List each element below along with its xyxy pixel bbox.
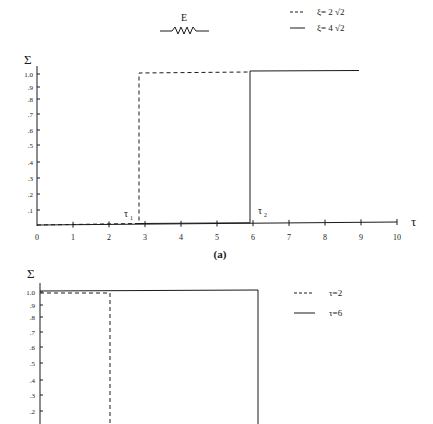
x-tick-label: 5 xyxy=(215,233,219,242)
svg-text:τ: τ xyxy=(124,208,128,219)
element-label: E xyxy=(181,12,187,23)
element-header: E xyxy=(160,12,209,34)
y-axis-label-a: Σ xyxy=(24,52,32,67)
y-tick-label: .2 xyxy=(28,191,34,199)
svg-text:1: 1 xyxy=(130,215,133,221)
y-axis-label-b: Σ xyxy=(27,266,35,281)
y-tick-label: .6 xyxy=(30,344,36,352)
y-tick-label: .8 xyxy=(30,314,36,322)
y-tick-label: .7 xyxy=(30,329,36,337)
y-tick-label: .8 xyxy=(28,96,34,104)
y-tick-label: .2 xyxy=(30,408,36,416)
legend-label-tau2: τ=2 xyxy=(329,288,342,298)
annotation-tau1: τ 1 xyxy=(124,208,133,221)
svg-text:τ: τ xyxy=(258,205,262,216)
legend-bottom: τ=2 τ=6 xyxy=(294,288,343,318)
x-tick-label: 4 xyxy=(179,233,183,242)
legend-top: ξ= 2 √2 ξ= 4 √2 xyxy=(290,7,345,33)
x-axis-label-a: τ xyxy=(411,214,416,229)
x-tick-label: 7 xyxy=(287,233,291,242)
x-tick-label: 1 xyxy=(71,233,75,242)
y-tick-label: .9 xyxy=(30,302,36,310)
svg-text:2: 2 xyxy=(264,212,267,218)
y-tick-label: .4 xyxy=(28,159,34,167)
spring-resistor-icon xyxy=(160,27,209,34)
figure-canvas: E ξ= 2 √2 ξ= 4 √2 Σ .1.2.3.4.5.6.7.8.91.… xyxy=(0,0,433,424)
legend-label-xi-2root2: ξ= 2 √2 xyxy=(317,7,345,17)
x-tick-label: 0 xyxy=(35,233,39,242)
y-tick-label: .6 xyxy=(28,127,34,135)
caption-a: (a) xyxy=(214,248,227,261)
series-dashed-a xyxy=(37,72,250,225)
y-tick-label: 1.0 xyxy=(24,71,33,79)
annotation-tau2: τ 2 xyxy=(258,205,267,218)
y-tick-label: .3 xyxy=(28,175,34,183)
y-tick-label: 1.0 xyxy=(26,289,35,297)
series-solid-a xyxy=(139,71,359,224)
chart-b: Σ .2.3.4.5.6.7.8.91.0 τ=2 τ=6 xyxy=(26,266,342,424)
y-tick-label: .4 xyxy=(30,377,36,385)
y-ticks-a: .1.2.3.4.5.6.7.8.91.0 xyxy=(24,71,40,215)
x-tick-label: 10 xyxy=(393,233,401,242)
legend-label-xi-4root2: ξ= 4 √2 xyxy=(317,23,345,33)
x-tick-label: 8 xyxy=(323,233,327,242)
y-tick-label: .1 xyxy=(28,207,34,215)
series-dashed-b xyxy=(40,293,110,424)
x-tick-label: 3 xyxy=(143,233,147,242)
legend-label-tau6: τ=6 xyxy=(329,308,343,318)
x-tick-label: 2 xyxy=(107,233,111,242)
y-tick-label: .9 xyxy=(28,84,34,92)
y-tick-label: .7 xyxy=(28,111,34,119)
chart-a: Σ .1.2.3.4.5.6.7.8.91.0 012345678910 τ τ… xyxy=(24,52,416,261)
x-tick-label: 9 xyxy=(359,233,363,242)
y-tick-label: .5 xyxy=(28,142,34,150)
y-tick-label: .5 xyxy=(30,360,36,368)
series-solid-b xyxy=(40,290,258,424)
x-tick-label: 6 xyxy=(251,233,255,242)
y-tick-label: .3 xyxy=(30,392,36,400)
